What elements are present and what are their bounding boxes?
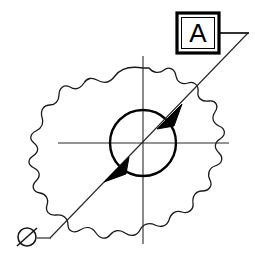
leader-diagonal-line <box>50 33 248 238</box>
engineering-drawing-canvas: A <box>0 0 255 258</box>
break-outline <box>29 67 224 238</box>
datum-letter-label: A <box>189 18 207 48</box>
drawing-svg-root: A <box>0 0 255 258</box>
